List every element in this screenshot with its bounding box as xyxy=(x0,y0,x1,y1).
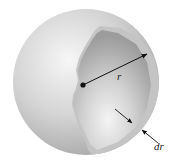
sphere-diagram xyxy=(0,0,177,162)
shell-thickness-label: dr xyxy=(154,140,164,152)
radius-label: r xyxy=(117,70,121,82)
